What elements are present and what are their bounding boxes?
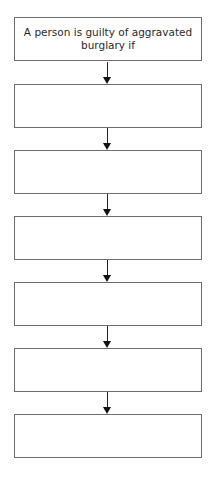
flowchart: A person is guilty of aggravated burglar… [0,0,214,478]
arrow-down-icon [103,326,112,348]
arrow-down-icon [103,260,112,282]
arrow-down-icon [103,392,112,414]
flow-box-3 [14,150,202,194]
flow-box-7 [14,414,202,458]
arrow-down-icon [103,128,112,150]
flow-box-2 [14,84,202,128]
flow-box-4 [14,216,202,260]
flow-box-5 [14,282,202,326]
arrow-down-icon [103,194,112,216]
flow-box-6 [14,348,202,392]
flow-box-1-text: A person is guilty of aggravated burglar… [15,26,201,52]
flow-box-1: A person is guilty of aggravated burglar… [14,17,202,61]
arrow-down-icon [103,62,112,84]
